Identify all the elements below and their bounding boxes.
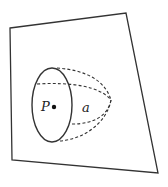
point-p-dot bbox=[52, 105, 56, 109]
plane-outline bbox=[10, 13, 158, 173]
label-p: P bbox=[40, 99, 50, 114]
closed-curve-ellipse bbox=[32, 68, 72, 142]
label-a: a bbox=[82, 100, 90, 115]
dashed-curve-top-inner bbox=[37, 84, 111, 100]
dashed-curve-bottom-inner bbox=[72, 100, 111, 124]
diagram-canvas: P a bbox=[0, 0, 168, 187]
